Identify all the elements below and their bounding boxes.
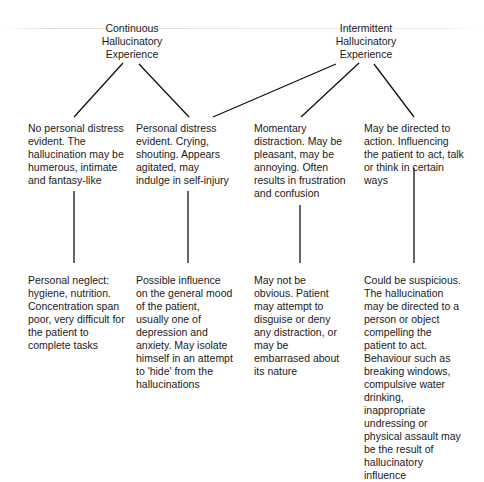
root-label-line: Continuous xyxy=(82,22,182,35)
level1-box-action: May be directed to action. Influencing t… xyxy=(364,122,464,187)
level2-box-mood: Possible influence on the general mood o… xyxy=(136,274,234,391)
box-text: Possible influence on the general mood o… xyxy=(136,274,234,391)
root-intermittent: Intermittent Hallucinatory Experience xyxy=(316,22,416,61)
box-text: Could be suspicious. The hallucination m… xyxy=(364,274,464,482)
level2-box-neglect: Personal neglect: hygiene, nutrition. Co… xyxy=(28,274,126,352)
root-label-line: Experience xyxy=(316,48,416,61)
box-text: May not be obvious. Patient may attempt … xyxy=(254,274,346,378)
box-text: Personal neglect: hygiene, nutrition. Co… xyxy=(28,274,126,352)
edge-intermittent-to-momentary xyxy=(301,63,359,117)
box-text: Momentary distraction. May be pleasant, … xyxy=(254,122,346,200)
edge-continuous-to-no-distress xyxy=(74,63,123,117)
box-text: Personal distress evident. Crying, shout… xyxy=(136,122,234,187)
edge-intermittent-to-distress xyxy=(213,64,336,117)
level2-box-suspicious: Could be suspicious. The hallucination m… xyxy=(364,274,464,482)
root-label-line: Intermittent xyxy=(316,22,416,35)
root-label-line: Hallucinatory xyxy=(316,35,416,48)
edge-intermittent-to-action xyxy=(374,64,414,117)
level1-box-momentary: Momentary distraction. May be pleasant, … xyxy=(254,122,346,200)
edge-continuous-to-distress xyxy=(139,64,189,117)
level1-box-no-distress: No personal distress evident. The halluc… xyxy=(28,122,126,187)
root-label-line: Experience xyxy=(82,48,182,61)
root-label-line: Hallucinatory xyxy=(82,35,182,48)
level1-box-distress: Personal distress evident. Crying, shout… xyxy=(136,122,234,187)
level2-box-not-obvious: May not be obvious. Patient may attempt … xyxy=(254,274,346,378)
box-text: May be directed to action. Influencing t… xyxy=(364,122,464,187)
box-text: No personal distress evident. The halluc… xyxy=(28,122,126,187)
root-continuous: Continuous Hallucinatory Experience xyxy=(82,22,182,61)
